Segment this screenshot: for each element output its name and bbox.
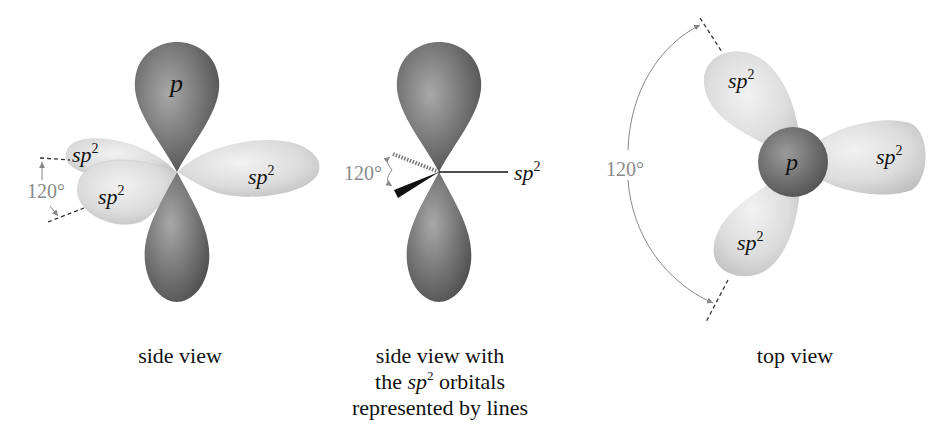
- caption-line-2: the sp2 orbitals: [330, 369, 550, 395]
- side-view-panel: p sp2 sp2 sp2 120°: [27, 42, 319, 302]
- svg-text:sp2: sp2: [514, 159, 541, 185]
- p-label: p: [168, 69, 183, 98]
- p-lobe-top: [397, 42, 481, 172]
- caption-line-3: represented by lines: [330, 395, 550, 421]
- side-view-lines-panel: sp2 120°: [344, 42, 541, 302]
- p-label: p: [784, 149, 798, 175]
- caption-side-view-lines: side view with the sp2 orbitals represen…: [330, 343, 550, 421]
- caption-line-1: side view with: [330, 343, 550, 369]
- angle-label: 120°: [606, 158, 644, 180]
- caption-side-view: side view: [100, 343, 260, 369]
- angle-label: 120°: [344, 162, 382, 184]
- caption-top-view: top view: [725, 343, 865, 369]
- angle-label: 120°: [27, 180, 65, 202]
- p-lobe-bottom: [407, 172, 472, 302]
- top-view-panel: p sp2 sp2 sp2 120°: [606, 18, 926, 322]
